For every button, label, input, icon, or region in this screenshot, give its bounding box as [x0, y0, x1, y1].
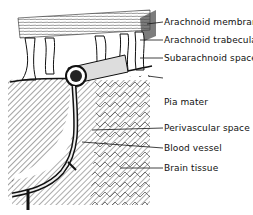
label-arachnoid-trabecula: Arachnoid trabecula	[164, 35, 253, 45]
label-blood-vessel: Blood vessel	[164, 143, 222, 153]
meninges-illustration	[0, 0, 253, 215]
brain-tissue-right	[90, 75, 150, 205]
label-arachnoid-membrane: Arachnoid membrane	[164, 17, 253, 27]
arachnoid-membrane-shape	[18, 10, 150, 38]
label-subarachnoid-space: Subarachnoid space	[164, 53, 253, 63]
label-brain-tissue: Brain tissue	[164, 163, 218, 173]
label-pia-mater: Pia mater	[164, 97, 208, 107]
label-perivascular-space: Perivascular space	[164, 123, 250, 133]
anatomical-diagram: Arachnoid membrane Arachnoid trabecula S…	[0, 0, 253, 215]
